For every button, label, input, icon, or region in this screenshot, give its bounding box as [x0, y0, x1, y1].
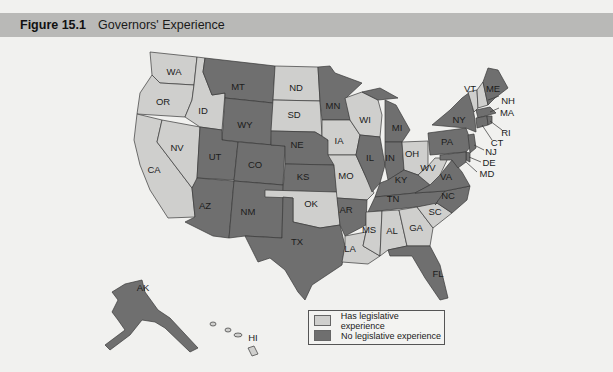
label-id: ID — [198, 105, 208, 116]
label-me: ME — [486, 83, 500, 94]
label-nh: NH — [501, 95, 515, 106]
label-nd: ND — [289, 82, 303, 93]
label-ms: MS — [362, 224, 376, 235]
label-oh: OH — [405, 148, 419, 159]
state-ri — [487, 116, 492, 125]
label-ga: GA — [409, 222, 423, 233]
label-ar: AR — [339, 204, 352, 215]
label-ut: UT — [209, 151, 222, 162]
label-tn: TN — [387, 193, 400, 204]
label-vt: VT — [464, 83, 476, 94]
label-wy: WY — [237, 119, 253, 130]
label-nv: NV — [170, 142, 184, 153]
legend-item-has-experience: Has legislative experience — [314, 313, 444, 328]
label-il: IL — [366, 152, 374, 163]
label-nc: NC — [441, 190, 455, 201]
label-la: LA — [344, 243, 356, 254]
legend-item-no-experience: No legislative experience — [314, 328, 444, 343]
label-ca: CA — [147, 164, 161, 175]
legend-label: Has legislative experience — [341, 311, 444, 331]
leader-md — [466, 162, 477, 172]
label-ma: MA — [500, 107, 515, 118]
legend-label: No legislative experience — [341, 331, 441, 341]
label-mn: MN — [326, 100, 341, 111]
label-wi: WI — [359, 114, 371, 125]
label-al: AL — [386, 225, 398, 236]
legend-swatch-light — [314, 315, 331, 326]
state-ak — [105, 280, 198, 352]
label-ny: NY — [452, 114, 466, 125]
label-nj: NJ — [485, 146, 497, 157]
legend-swatch-dark — [314, 330, 331, 341]
label-sc: SC — [428, 206, 441, 217]
label-ks: KS — [297, 171, 310, 182]
label-ak: AK — [137, 282, 150, 293]
state-hi — [248, 346, 258, 356]
hawaii-island-oahu — [225, 328, 231, 332]
leader-ri — [490, 121, 502, 130]
label-va: VA — [440, 171, 453, 182]
label-tx: TX — [291, 236, 304, 247]
label-hi: HI — [248, 332, 258, 343]
label-ia: IA — [335, 135, 345, 146]
label-de: DE — [482, 157, 495, 168]
label-wv: WV — [420, 162, 436, 173]
label-mi: MI — [392, 122, 403, 133]
label-or: OR — [156, 96, 170, 107]
label-pa: PA — [441, 136, 454, 147]
state-ks — [283, 164, 337, 192]
state-ct — [476, 116, 488, 128]
us-map: WA OR CA NV ID MT WY UT CO AZ NM ND SD N… — [0, 0, 613, 372]
hawaii-island-kauai — [210, 322, 216, 326]
label-md: MD — [480, 168, 495, 179]
state-ny — [432, 92, 476, 132]
label-co: CO — [248, 159, 262, 170]
leader-de — [469, 157, 481, 162]
label-ok: OK — [304, 198, 318, 209]
state-nm — [229, 181, 283, 238]
hawaii-island-maui — [234, 333, 242, 337]
map-legend: Has legislative experience No legislativ… — [308, 310, 445, 345]
label-ky: KY — [395, 174, 408, 185]
label-nm: NM — [241, 206, 256, 217]
label-ne: NE — [290, 139, 303, 150]
label-mo: MO — [338, 170, 353, 181]
label-fl: FL — [432, 268, 443, 279]
label-in: IN — [385, 152, 395, 163]
state-nj — [468, 134, 476, 153]
label-az: AZ — [199, 200, 211, 211]
label-mt: MT — [231, 81, 245, 92]
label-wa: WA — [167, 66, 183, 77]
label-sd: SD — [287, 109, 300, 120]
